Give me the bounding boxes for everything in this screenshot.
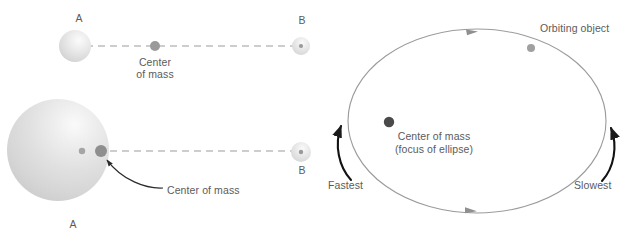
equal-mass-case xyxy=(59,30,310,62)
label-center-of-mass-top-line1: Center xyxy=(139,56,171,68)
diagram-canvas xyxy=(0,0,621,242)
label-sphere-b-top: B xyxy=(298,14,305,26)
label-ellipse-focus-line1: Center of mass xyxy=(398,130,471,144)
elliptical-orbit xyxy=(338,29,615,213)
sphere-a-large-center-dot xyxy=(79,148,85,154)
center-of-mass-callout-arrow xyxy=(107,160,163,188)
label-sphere-a-top: A xyxy=(75,12,82,24)
label-sphere-a-large: A xyxy=(69,218,76,230)
label-fastest: Fastest xyxy=(328,179,363,191)
orbiting-object-dot xyxy=(527,44,535,52)
center-of-mass-dot-top xyxy=(150,41,160,51)
unequal-mass-case xyxy=(7,99,311,201)
orbit-direction-arrow-bottom xyxy=(465,207,477,213)
label-slowest: Slowest xyxy=(574,179,611,191)
label-center-of-mass-bottom: Center of mass xyxy=(167,184,240,196)
sphere-b-top-center-dot xyxy=(299,44,303,48)
astronomy-diagram: A B Center of mass A B Center of mass Or… xyxy=(0,0,621,242)
label-ellipse-focus-line2: (focus of ellipse) xyxy=(395,143,473,157)
label-orbiting-object: Orbiting object xyxy=(540,22,609,34)
orbit-direction-arrow-top xyxy=(466,30,478,36)
label-sphere-b-bottom: B xyxy=(298,164,305,176)
ellipse-focus-dot xyxy=(384,117,394,127)
sphere-a-large xyxy=(7,99,109,201)
sphere-b-bottom-center-dot xyxy=(299,150,303,154)
label-center-of-mass-top-line2: of mass xyxy=(136,68,173,80)
center-of-mass-dot-bottom xyxy=(95,145,107,157)
sphere-a-top xyxy=(59,30,91,62)
